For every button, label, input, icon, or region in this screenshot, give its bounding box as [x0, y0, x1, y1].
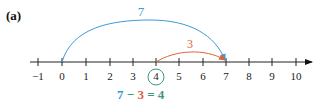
tick-label: 2 — [107, 70, 113, 82]
arc-three — [156, 52, 225, 62]
tick-label: 5 — [176, 70, 182, 82]
tick-label: 0 — [59, 70, 65, 82]
tick-label: 9 — [269, 70, 275, 82]
equation-equals: = — [144, 87, 158, 102]
arc-label-seven: 7 — [138, 4, 145, 20]
tick-label: −1 — [32, 70, 44, 82]
tick-label: 3 — [130, 70, 136, 82]
tick-label: 8 — [246, 70, 252, 82]
arc-seven — [62, 20, 225, 62]
equation: 7 − 3 = 4 — [117, 87, 164, 103]
equation-minus: − — [124, 87, 138, 102]
tick-label-circled: 4 — [153, 70, 159, 82]
tick-label: 1 — [83, 70, 89, 82]
number-line-diagram — [0, 0, 329, 110]
tick-label: 10 — [291, 70, 302, 82]
arc-label-three: 3 — [187, 37, 193, 52]
tick-label: 6 — [200, 70, 206, 82]
tick-label: 7 — [223, 70, 229, 82]
equation-result: 4 — [158, 87, 165, 102]
